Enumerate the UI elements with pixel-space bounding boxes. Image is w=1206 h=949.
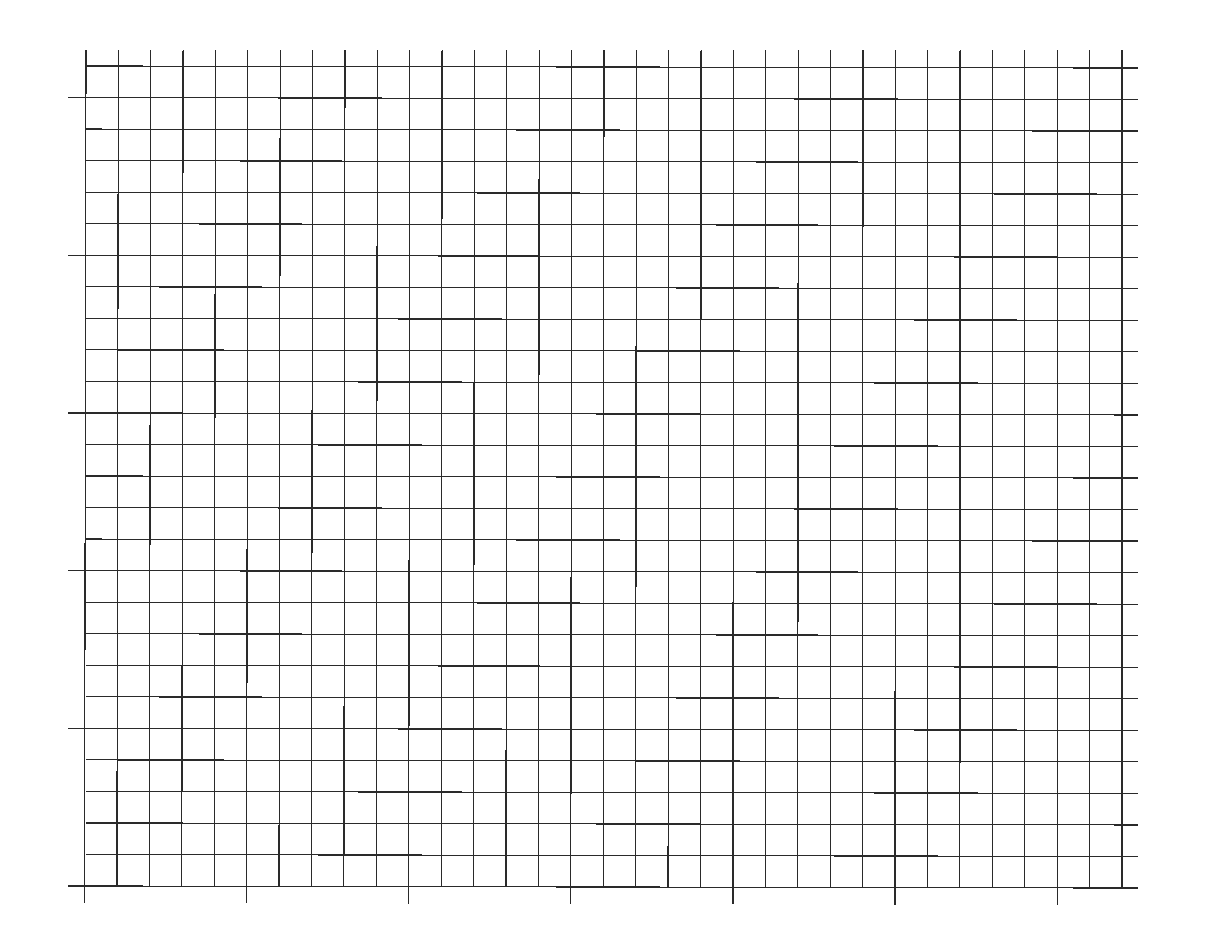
horizontal-grid-line: [86, 255, 1138, 257]
horizontal-grid-line: [86, 98, 1138, 100]
horizontal-grid-line: [86, 287, 1138, 289]
horizontal-grid-line: [86, 823, 1138, 825]
horizontal-grid-line: [86, 350, 1138, 352]
horizontal-grid-line: [86, 161, 1138, 163]
horizontal-grid-line: [86, 539, 1138, 541]
horizontal-grid-line: [86, 665, 1138, 667]
vertical-grid-line: [149, 50, 150, 886]
horizontal-grid-line: [86, 318, 1138, 320]
horizontal-grid-lines: [86, 66, 1138, 888]
horizontal-grid-line: [86, 854, 1138, 856]
vertical-grid-line: [603, 50, 604, 887]
horizontal-grid-line: [86, 634, 1138, 636]
horizontal-grid-line: [86, 192, 1138, 194]
horizontal-grid-line: [86, 886, 1138, 888]
horizontal-grid-line: [86, 760, 1138, 762]
vertical-grid-line: [117, 50, 118, 886]
vertical-grid-line: [279, 50, 280, 886]
horizontal-grid-line: [86, 602, 1138, 604]
bottom-major-ticks: [85, 886, 1058, 905]
vertical-grid-line: [474, 50, 475, 887]
vertical-grid-line: [182, 50, 183, 886]
vertical-grid-line: [571, 50, 572, 887]
horizontal-grid-line: [86, 571, 1138, 573]
vertical-grid-line: [247, 50, 248, 886]
horizontal-grid-line: [86, 381, 1138, 383]
vertical-grid-line: [344, 50, 345, 887]
horizontal-grid-line: [86, 66, 1138, 68]
vertical-grid-line: [85, 50, 87, 886]
horizontal-grid-line: [86, 791, 1138, 793]
vertical-grid-line: [506, 50, 507, 887]
horizontal-grid-line: [86, 728, 1138, 730]
graph-paper-grid: [0, 0, 1206, 949]
left-major-ticks: [68, 98, 86, 886]
vertical-grid-line: [441, 50, 442, 887]
vertical-grid-lines: [85, 50, 1123, 888]
vertical-grid-line: [376, 50, 377, 887]
vertical-grid-line: [214, 50, 215, 886]
horizontal-grid-line: [86, 697, 1138, 699]
vertical-grid-line: [409, 50, 410, 887]
vertical-grid-line: [311, 50, 312, 886]
horizontal-grid-line: [86, 444, 1138, 446]
horizontal-grid-line: [86, 476, 1138, 478]
horizontal-grid-line: [86, 224, 1138, 226]
horizontal-grid-line: [86, 508, 1138, 510]
horizontal-grid-line: [86, 413, 1138, 415]
horizontal-grid-line: [86, 129, 1138, 131]
vertical-grid-line: [538, 50, 539, 887]
